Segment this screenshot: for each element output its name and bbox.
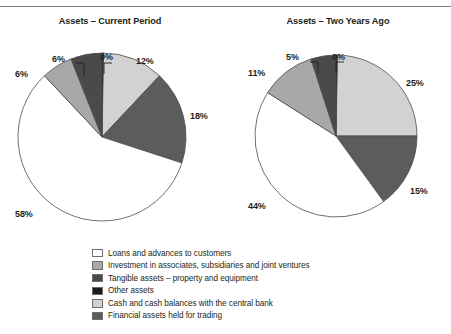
pct-label-other: 0% [100,52,113,62]
legend-swatch-tangible [92,274,103,283]
legend-swatch-cash [92,299,103,308]
pct-label-financial: 18% [190,111,208,121]
chart-title-current-period: Assets – Current Period [0,16,220,26]
pct-label-loans-2: 44% [248,201,266,211]
figure-canvas: Assets – Current Period Assets – Two Yea… [0,0,451,334]
chart-legend: Loans and advances to customers Investme… [92,247,372,323]
header-rule [0,6,451,7]
legend-swatch-financial [92,312,103,321]
pie-slice [336,55,417,136]
legend-label-financial: Financial assets held for trading [108,311,222,320]
pct-label-investment: 6% [15,69,28,79]
legend-label-loans: Loans and advances to customers [108,249,231,258]
pct-label-investment-2: 11% [248,68,265,78]
legend-label-cash: Cash and cash balances with the central … [108,299,273,308]
legend-item-tangible: Tangible assets – property and equipment [92,272,372,284]
pie-chart-current-period: 6% 6% 0% 12% 18% 58% [14,46,224,236]
pct-label-other-2: 0% [332,52,345,62]
legend-item-investment: Investment in associates, subsidiaries a… [92,260,372,272]
pct-label-tangible-2: 5% [286,52,299,62]
legend-swatch-investment [92,261,103,270]
legend-item-loans: Loans and advances to customers [92,247,372,259]
pct-label-financial-2: 15% [410,186,428,196]
pct-label-tangible: 6% [52,54,65,64]
legend-item-other: Other assets [92,285,372,297]
legend-label-other: Other assets [108,286,154,295]
pie-slices-two-years-ago [255,55,417,217]
legend-item-financial: Financial assets held for trading [92,310,372,322]
legend-swatch-loans [92,249,103,258]
pie-slices-current-period [18,53,186,221]
legend-label-investment: Investment in associates, subsidiaries a… [108,261,310,270]
pct-label-cash-2: 25% [406,78,424,88]
pie-svg-current-period [14,46,224,236]
pct-label-cash: 12% [136,56,154,66]
legend-swatch-other [92,287,103,296]
pct-label-loans: 58% [15,209,33,219]
legend-label-tangible: Tangible assets – property and equipment [108,274,258,283]
legend-item-cash: Cash and cash balances with the central … [92,297,372,309]
pie-svg-two-years-ago [244,46,444,236]
pie-chart-two-years-ago: 11% 5% 0% 25% 15% 44% [244,46,444,236]
chart-title-two-years-ago: Assets – Two Years Ago [228,16,448,26]
